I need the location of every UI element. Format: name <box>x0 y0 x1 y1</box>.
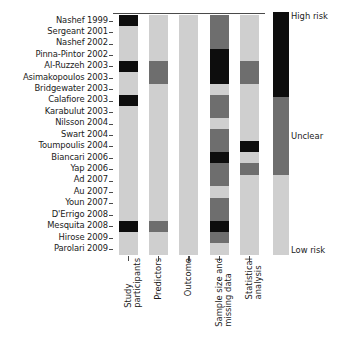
heatmap-cell <box>179 175 198 186</box>
heatmap-cell <box>179 232 198 243</box>
study-label: Parolari 2009 <box>0 242 112 253</box>
risk-legend-colorbar <box>273 12 289 255</box>
heatmap-cell <box>240 141 259 152</box>
study-label: Nilsson 2004 <box>0 117 112 128</box>
heatmap-cell <box>240 129 259 140</box>
study-label: Hirose 2009 <box>0 231 112 242</box>
heatmap-cell <box>210 38 229 49</box>
heatmap-cell <box>240 26 259 37</box>
heatmap-cell <box>210 163 229 174</box>
heatmap-cell <box>179 141 198 152</box>
heatmap-cell <box>210 95 229 106</box>
study-label: Bridgewater 2003 <box>0 83 112 94</box>
heatmap-cell <box>210 198 229 209</box>
heatmap-cell <box>240 118 259 129</box>
heatmap-cell <box>210 243 229 254</box>
heatmap-cell <box>210 49 229 60</box>
domain-label: Sample size andmissing data <box>215 258 234 327</box>
heatmap-cell <box>210 61 229 72</box>
heatmap-cell <box>179 15 198 26</box>
study-label: Karabulut 2003 <box>0 105 112 116</box>
heatmap-cell <box>179 26 198 37</box>
legend-band <box>273 12 289 97</box>
heatmap-cell <box>119 95 138 106</box>
heatmap-column <box>149 15 168 255</box>
heatmap-cell <box>240 209 259 220</box>
heatmap-cell <box>179 243 198 254</box>
heatmap-cell <box>119 15 138 26</box>
heatmap-cell <box>240 72 259 83</box>
heatmap-cell <box>210 84 229 95</box>
heatmap-column <box>119 15 138 255</box>
heatmap-cell <box>240 84 259 95</box>
legend-band <box>273 97 289 175</box>
heatmap-cell <box>240 175 259 186</box>
heatmap-cell <box>179 129 198 140</box>
heatmap-cell <box>240 106 259 117</box>
heatmap-cell <box>179 84 198 95</box>
risk-legend-labels: High riskUnclearLow risk <box>291 12 340 255</box>
domain-label-slot: Outcome <box>179 258 198 341</box>
study-label: Swart 2004 <box>0 128 112 139</box>
heatmap-cell <box>179 106 198 117</box>
heatmap-cell <box>149 186 168 197</box>
heatmap-cell <box>210 152 229 163</box>
heatmap-cell <box>179 95 198 106</box>
study-label: Ad 2007 <box>0 174 112 185</box>
domain-label: Statisticalanalysis <box>245 258 264 299</box>
heatmap-cell <box>210 72 229 83</box>
heatmap-cell <box>119 26 138 37</box>
heatmap-cell <box>179 152 198 163</box>
heatmap-cell <box>149 84 168 95</box>
heatmap-cell <box>119 61 138 72</box>
heatmap-cell <box>240 232 259 243</box>
heatmap-cell <box>119 118 138 129</box>
domain-label-line1: Outcome <box>183 258 193 296</box>
heatmap-cell <box>149 152 168 163</box>
heatmap-cell <box>119 209 138 220</box>
heatmap-cell <box>149 221 168 232</box>
heatmap-cell <box>149 118 168 129</box>
heatmap-cell <box>149 129 168 140</box>
heatmap-cell <box>119 175 138 186</box>
heatmap-cell <box>240 243 259 254</box>
heatmap-cell <box>149 175 168 186</box>
domain-column-labels: StudyparticipantsPredictorsOutcomeSample… <box>113 258 265 341</box>
heatmap-cell <box>179 118 198 129</box>
heatmap-cell <box>149 243 168 254</box>
heatmap-cell <box>210 106 229 117</box>
heatmap-cell <box>210 141 229 152</box>
heatmap-cell <box>119 243 138 254</box>
study-label: Calafiore 2003 <box>0 94 112 105</box>
study-row-labels: Nashef 1999Sergeant 2001Nashef 2002Pinna… <box>0 14 112 254</box>
heatmap-cell <box>210 209 229 220</box>
study-label: Mesquita 2008 <box>0 220 112 231</box>
heatmap-cell <box>240 15 259 26</box>
heatmap-cell <box>179 49 198 60</box>
heatmap-cell <box>119 72 138 83</box>
heatmap-cell <box>149 61 168 72</box>
heatmap-cell <box>210 175 229 186</box>
heatmap-cell <box>119 38 138 49</box>
study-label: Yap 2006 <box>0 162 112 173</box>
heatmap-cell <box>240 152 259 163</box>
study-label: Al-Ruzzeh 2003 <box>0 60 112 71</box>
heatmap-cell <box>179 163 198 174</box>
heatmap-cell <box>119 129 138 140</box>
study-label: Toumpoulis 2004 <box>0 140 112 151</box>
heatmap-column <box>240 15 259 255</box>
heatmap-cell <box>240 163 259 174</box>
heatmap-cell <box>119 106 138 117</box>
heatmap-columns <box>113 15 265 255</box>
heatmap-cell <box>240 186 259 197</box>
heatmap-column <box>210 15 229 255</box>
heatmap-cell <box>240 198 259 209</box>
heatmap-cell <box>149 209 168 220</box>
heatmap-cell <box>179 72 198 83</box>
heatmap-cell <box>240 95 259 106</box>
heatmap-cell <box>240 49 259 60</box>
heatmap-cell <box>179 38 198 49</box>
heatmap-cell <box>210 26 229 37</box>
legend-label: Low risk <box>291 246 325 254</box>
heatmap-cell <box>149 198 168 209</box>
